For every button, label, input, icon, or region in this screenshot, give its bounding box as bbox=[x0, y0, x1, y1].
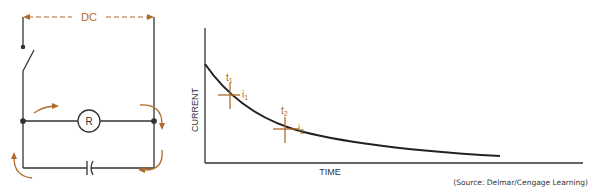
dc-label: DC bbox=[81, 11, 97, 23]
i2-label: i2 bbox=[298, 123, 304, 135]
i1-label: i1 bbox=[242, 89, 248, 101]
resistor-label: R bbox=[85, 116, 92, 127]
t1-label: t1 bbox=[226, 72, 233, 84]
t2-label: t2 bbox=[281, 105, 288, 117]
circuit-and-graph: R DC t1 i1 t2 i2 CURRENT TIME bbox=[0, 0, 598, 192]
source-credit: (Source: Delmar/Cengage Learning) bbox=[453, 178, 588, 187]
x-axis-label: TIME bbox=[319, 167, 341, 177]
y-axis-label: CURRENT bbox=[190, 87, 200, 132]
circuit-diagram bbox=[21, 17, 156, 175]
current-time-graph bbox=[205, 28, 583, 163]
